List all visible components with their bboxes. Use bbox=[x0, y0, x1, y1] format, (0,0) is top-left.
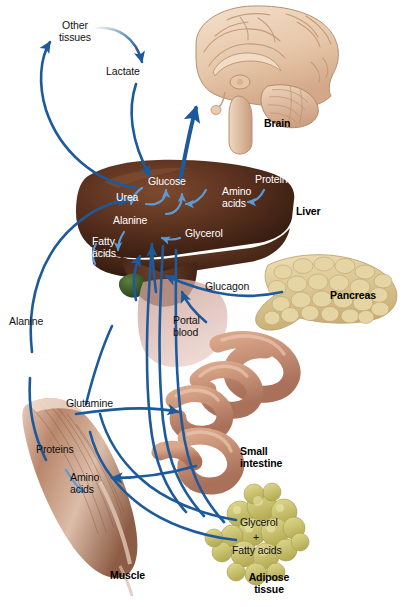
arrow-fatty-acids-into-liver bbox=[134, 256, 140, 300]
arrow-other-tissues-to-lactate bbox=[96, 28, 142, 62]
label-brain: Brain bbox=[264, 118, 290, 130]
arrow-alanine-to-glucose bbox=[146, 190, 166, 204]
label-portal-blood: Portal blood bbox=[173, 315, 200, 338]
label-protein-liver: Protein bbox=[255, 174, 288, 186]
label-glucose: Glucose bbox=[148, 176, 186, 188]
arrow-lactate-to-glucose bbox=[132, 84, 150, 176]
arrow-amino-acids-to-glucose bbox=[186, 190, 206, 204]
label-ketone-bodies: Ketone bodies bbox=[78, 270, 111, 293]
label-urea: Urea bbox=[116, 192, 138, 204]
arrow-fatty-acids-down bbox=[118, 232, 124, 250]
label-fatty-acids-liver: Fatty acids bbox=[92, 236, 116, 259]
line-muscle-riser bbox=[86, 326, 112, 404]
label-alanine-left: Alanine bbox=[9, 316, 43, 328]
metabolic-pathway-diagram: Other tissues Lactate Brain Glucose Urea… bbox=[0, 0, 405, 607]
label-pancreas: Pancreas bbox=[330, 290, 376, 302]
label-lactate: Lactate bbox=[106, 66, 140, 78]
label-adipose-tissue: Adipose tissue bbox=[238, 572, 300, 595]
label-amino-acids-muscle: Amino acids bbox=[70, 472, 99, 495]
label-other-tissues: Other tissues bbox=[50, 20, 100, 43]
label-glycerol-liver: Glycerol bbox=[185, 228, 223, 240]
label-small-intestine: Small intestine bbox=[240, 446, 282, 469]
arrows-layer bbox=[0, 0, 405, 607]
label-plus-sign: + bbox=[253, 532, 259, 544]
arrow-glucose-to-brain bbox=[180, 108, 196, 182]
arrow-to-muscle bbox=[112, 466, 196, 478]
arrow-liver-to-other-tissues bbox=[41, 42, 136, 188]
line-adipose-to-liver-2 bbox=[90, 432, 236, 540]
arrow-glycerol-into-liver bbox=[152, 246, 156, 292]
label-liver: Liver bbox=[296, 206, 321, 218]
label-proteins-muscle: Proteins bbox=[36, 444, 74, 456]
label-glucagon: Glucagon bbox=[205, 281, 249, 293]
label-muscle: Muscle bbox=[110, 570, 145, 582]
arrow-glycerol-to-glucose bbox=[166, 194, 182, 214]
label-glycerol-adipose: Glycerol bbox=[240, 517, 278, 529]
arrow-glycerol-in bbox=[162, 238, 180, 240]
label-amino-acids-liver: Amino acids bbox=[222, 186, 251, 209]
label-glutamine: Glutamine bbox=[66, 398, 113, 410]
line-adipose-to-liver-1 bbox=[100, 414, 236, 520]
label-fatty-acids-adipose: Fatty acids bbox=[232, 545, 282, 557]
label-alanine-liver: Alanine bbox=[113, 215, 147, 227]
